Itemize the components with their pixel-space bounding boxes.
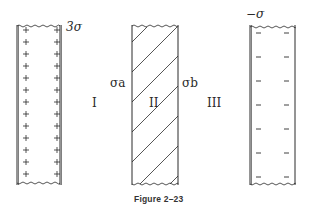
left-slab <box>17 25 62 185</box>
middle-slab-left-surface-label: σa <box>110 77 125 89</box>
region-label-ii: II <box>149 97 158 109</box>
right-slab <box>250 25 295 185</box>
wavy-break-bottom <box>250 183 295 185</box>
wavy-break-top <box>17 25 60 27</box>
region-label-i: I <box>92 97 97 109</box>
wavy-break-top <box>132 25 178 27</box>
middle-slab-right-surface-label: σb <box>182 77 198 89</box>
left-slab-charge-label: 3σ <box>66 21 82 33</box>
plus-charges <box>23 27 60 177</box>
wavy-break-top <box>250 26 295 28</box>
right-slab-charge-label: −σ <box>246 8 264 20</box>
minus-charges <box>256 33 289 177</box>
wavy-break-bottom <box>17 182 60 184</box>
figure-caption: Figure 2–23 <box>134 194 183 204</box>
figure-2-23: 3σ −σ σa σb I II III Figure 2–23 <box>0 0 313 214</box>
region-label-iii: III <box>207 97 221 109</box>
